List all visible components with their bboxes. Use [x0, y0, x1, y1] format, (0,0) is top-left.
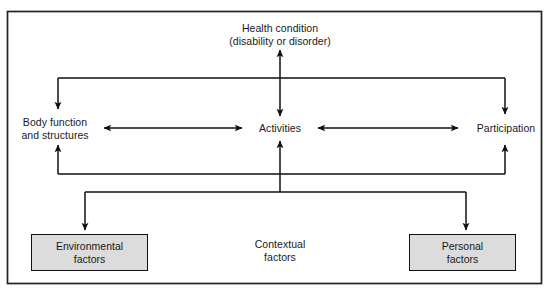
node-body-function-and-structures: Body function and structures: [21, 116, 88, 141]
node-health-condition-line1: Health condition: [229, 22, 331, 35]
node-participation: Participation: [477, 122, 535, 135]
node-body-function-line2: and structures: [21, 129, 88, 142]
node-contextual-factors-line1: Contextual: [255, 238, 306, 251]
node-personal-factors-line2: factors: [442, 253, 483, 266]
node-environmental-factors-line1: Environmental: [56, 240, 123, 253]
node-contextual-factors: Contextual factors: [255, 238, 306, 263]
diagram-canvas: Health condition (disability or disorder…: [0, 0, 553, 295]
node-participation-line1: Participation: [477, 122, 535, 135]
node-health-condition: Health condition (disability or disorder…: [229, 22, 331, 47]
node-personal-factors: Personal factors: [409, 234, 516, 271]
node-environmental-factors-label: Environmental factors: [56, 240, 123, 265]
node-personal-factors-line1: Personal: [442, 240, 483, 253]
node-body-function-line1: Body function: [21, 116, 88, 129]
node-activities-line1: Activities: [259, 122, 301, 135]
node-personal-factors-label: Personal factors: [442, 240, 483, 265]
node-contextual-factors-line2: factors: [255, 251, 306, 264]
node-environmental-factors-line2: factors: [56, 253, 123, 266]
node-environmental-factors: Environmental factors: [31, 234, 148, 271]
node-health-condition-line2: (disability or disorder): [229, 35, 331, 48]
node-activities: Activities: [259, 122, 301, 135]
